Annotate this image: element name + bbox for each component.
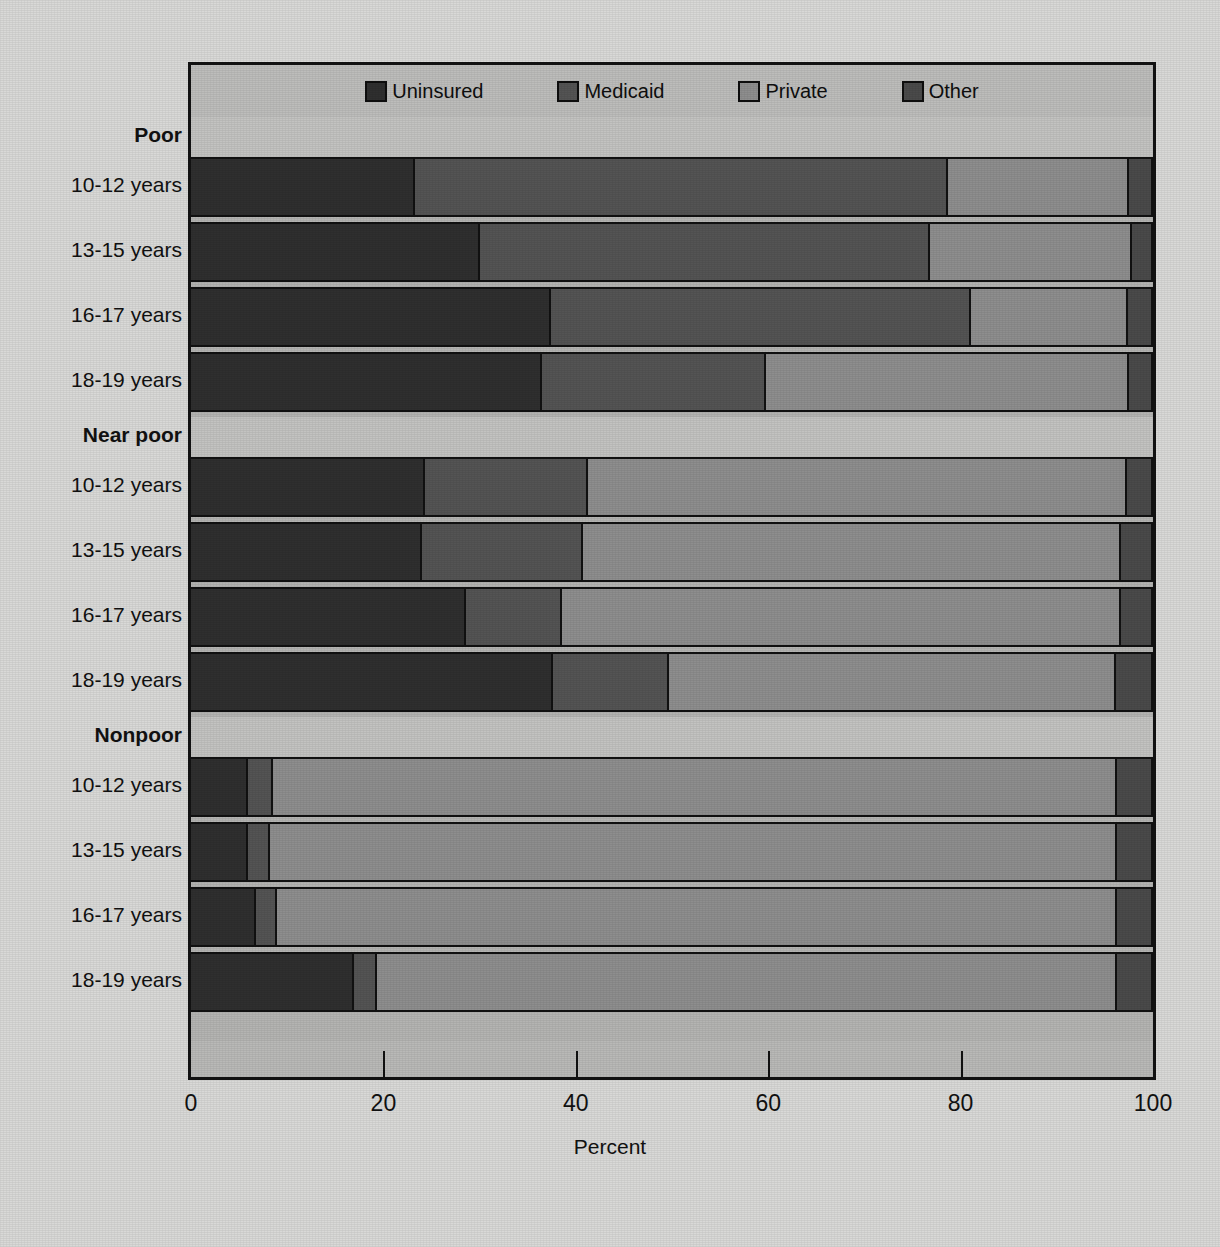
bars-container (191, 117, 1153, 1077)
x-axis-tick (383, 1051, 385, 1077)
chart-legend: UninsuredMedicaidPrivateOther (191, 65, 1153, 117)
bar-segment-uninsured (191, 759, 248, 815)
stacked-bar (191, 652, 1153, 712)
x-axis-tick-label: 100 (1134, 1090, 1172, 1117)
bar-segment-other (1116, 654, 1151, 710)
bar-row (191, 457, 1153, 517)
bar-segment-private (669, 654, 1116, 710)
bar-segment-uninsured (191, 524, 422, 580)
bar-row (191, 587, 1153, 647)
bar-segment-medicaid (551, 289, 971, 345)
y-axis-label: 18-19 years (12, 968, 182, 992)
bar-segment-private (948, 159, 1128, 215)
stacked-bar (191, 157, 1153, 217)
stacked-bar (191, 457, 1153, 517)
x-axis-strip (191, 1041, 1153, 1077)
group-label-near-poor: Near poor (12, 423, 182, 447)
bar-row (191, 822, 1153, 882)
bar-segment-private (766, 354, 1129, 410)
bar-segment-uninsured (191, 159, 415, 215)
bar-row (191, 522, 1153, 582)
legend-swatch-icon (902, 81, 924, 102)
x-axis-tick (576, 1051, 578, 1077)
bar-segment-private (930, 224, 1132, 280)
x-axis-tick (768, 1051, 770, 1077)
group-band-poor (191, 117, 1153, 157)
stacked-bar (191, 952, 1153, 1012)
y-axis-label: 10-12 years (12, 473, 182, 497)
bar-segment-uninsured (191, 824, 248, 880)
bar-segment-other (1117, 824, 1151, 880)
bar-segment-private (562, 589, 1122, 645)
bar-segment-other (1127, 459, 1151, 515)
bar-segment-private (270, 824, 1118, 880)
bar-segment-uninsured (191, 589, 466, 645)
y-axis-label: 18-19 years (12, 668, 182, 692)
stacked-bar (191, 887, 1153, 947)
y-axis-label: 18-19 years (12, 368, 182, 392)
bar-segment-other (1121, 589, 1151, 645)
bar-segment-medicaid (542, 354, 766, 410)
bar-row (191, 757, 1153, 817)
group-label-poor: Poor (12, 123, 182, 147)
legend-swatch-icon (738, 81, 760, 102)
y-axis-label: 10-12 years (12, 173, 182, 197)
bar-segment-uninsured (191, 654, 553, 710)
y-axis-label: 13-15 years (12, 238, 182, 262)
bar-segment-other (1128, 289, 1151, 345)
bar-segment-private (273, 759, 1118, 815)
bar-segment-other (1129, 159, 1151, 215)
bar-segment-uninsured (191, 954, 354, 1010)
stacked-bar (191, 522, 1153, 582)
bar-segment-other (1129, 354, 1151, 410)
bar-segment-private (971, 289, 1127, 345)
group-label-nonpoor: Nonpoor (12, 723, 182, 747)
bar-segment-medicaid (354, 954, 377, 1010)
bar-segment-other (1132, 224, 1151, 280)
legend-item-label: Uninsured (392, 80, 483, 103)
x-axis-tick-label: 60 (755, 1090, 781, 1117)
bar-segment-medicaid (248, 824, 270, 880)
legend-item-label: Medicaid (584, 80, 664, 103)
legend-item-label: Other (929, 80, 979, 103)
legend-swatch-icon (557, 81, 579, 102)
group-band-nonpoor (191, 717, 1153, 757)
bar-row (191, 352, 1153, 412)
stacked-bar (191, 822, 1153, 882)
bar-row (191, 652, 1153, 712)
bar-segment-medicaid (553, 654, 669, 710)
bar-segment-uninsured (191, 289, 551, 345)
y-axis-label: 16-17 years (12, 603, 182, 627)
legend-item-uninsured: Uninsured (365, 80, 483, 103)
stacked-bar (191, 287, 1153, 347)
bar-segment-medicaid (466, 589, 562, 645)
bar-segment-other (1121, 524, 1151, 580)
bar-segment-medicaid (415, 159, 949, 215)
bar-row (191, 157, 1153, 217)
x-axis-tick (961, 1051, 963, 1077)
legend-swatch-icon (365, 81, 387, 102)
bar-segment-medicaid (248, 759, 273, 815)
bar-segment-medicaid (425, 459, 588, 515)
legend-item-label: Private (765, 80, 827, 103)
y-axis-label: 13-15 years (12, 838, 182, 862)
legend-item-private: Private (738, 80, 827, 103)
bar-row (191, 952, 1153, 1012)
y-axis-label: 16-17 years (12, 903, 182, 927)
x-axis-tick-label: 20 (371, 1090, 397, 1117)
x-axis-tick-label: 40 (563, 1090, 589, 1117)
stacked-bar (191, 352, 1153, 412)
bar-segment-other (1117, 759, 1151, 815)
x-axis-tick-label: 80 (948, 1090, 974, 1117)
bar-segment-medicaid (422, 524, 582, 580)
x-axis-title: Percent (0, 1135, 1220, 1159)
legend-item-medicaid: Medicaid (557, 80, 664, 103)
bar-segment-private (583, 524, 1122, 580)
figure: UninsuredMedicaidPrivateOther Poor10-12 … (0, 0, 1220, 1247)
y-axis-label: 13-15 years (12, 538, 182, 562)
bar-segment-private (277, 889, 1117, 945)
bar-segment-private (377, 954, 1117, 1010)
bar-segment-medicaid (480, 224, 930, 280)
y-axis-label: 10-12 years (12, 773, 182, 797)
bar-row (191, 287, 1153, 347)
